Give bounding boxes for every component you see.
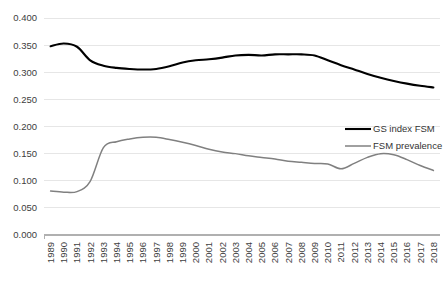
x-axis-tick-label: 2006 (269, 242, 280, 263)
x-axis-tick-label: 2010 (322, 242, 333, 263)
x-axis-tick-label: 1994 (111, 242, 122, 263)
x-axis-tick-label: 1992 (85, 242, 96, 263)
x-axis-tick-label: 2018 (428, 242, 439, 263)
x-axis-tick-label: 2003 (230, 242, 241, 263)
x-axis-tick-label: 2002 (217, 242, 228, 263)
x-axis-tick-label: 2011 (335, 242, 346, 262)
x-axis-line (44, 235, 440, 239)
gridlines (44, 18, 440, 208)
chart-container: 0.0000.0500.1000.1500.2000.2500.3000.350… (0, 0, 448, 287)
y-axis-tick-label: 0.150 (13, 148, 37, 159)
x-axis-tick-label: 2005 (256, 242, 267, 263)
x-axis-tick-label: 1990 (58, 242, 69, 263)
y-axis-tick-label: 0.000 (13, 229, 37, 240)
line-chart: 0.0000.0500.1000.1500.2000.2500.3000.350… (0, 0, 448, 287)
x-axis-tick-label: 1997 (151, 242, 162, 263)
x-axis-tick-label: 1995 (124, 242, 135, 263)
y-axis-tick-label: 0.100 (13, 175, 37, 186)
x-axis-tick-label: 1989 (45, 242, 56, 263)
y-axis-tick-label: 0.050 (13, 202, 37, 213)
x-axis-tick-label: 2009 (309, 242, 320, 263)
x-axis-tick-label: 2017 (415, 242, 426, 263)
x-axis-tick-label: 2012 (349, 242, 360, 263)
x-axis-tick-label: 2015 (388, 242, 399, 263)
x-axis-tick-label: 1998 (164, 242, 175, 263)
x-axis-tick-label: 2014 (375, 242, 386, 263)
y-axis-tick-label: 0.300 (13, 67, 37, 78)
x-axis-tick-label: 2016 (401, 242, 412, 263)
x-axis-tick-label: 2001 (203, 242, 214, 263)
x-axis-tick-label: 2013 (362, 242, 373, 263)
y-axis-tick-label: 0.200 (13, 121, 37, 132)
data-series (51, 43, 434, 192)
x-axis-tick-label: 2004 (243, 242, 254, 263)
x-axis-tick-label: 1991 (71, 242, 82, 263)
x-axis-tick-label: 2008 (296, 242, 307, 263)
legend-label: GS index FSM (373, 123, 435, 134)
x-axis-tick-label: 2000 (190, 242, 201, 263)
series-line-gs-index-fsm (51, 43, 434, 87)
y-axis-tick-label: 0.350 (13, 40, 37, 51)
y-axis-tick-label: 0.400 (13, 12, 37, 23)
y-axis-tick-labels: 0.0000.0500.1000.1500.2000.2500.3000.350… (13, 12, 37, 240)
y-axis-tick-label: 0.250 (13, 94, 37, 105)
x-axis-tick-label: 2007 (283, 242, 294, 263)
legend-label: FSM prevalence (373, 140, 442, 151)
x-axis-tick-label: 1993 (98, 242, 109, 263)
x-axis-tick-label: 1996 (137, 242, 148, 263)
x-axis-tick-label: 1999 (177, 242, 188, 263)
x-axis-tick-labels: 1989199019911992199319941995199619971998… (45, 242, 439, 263)
